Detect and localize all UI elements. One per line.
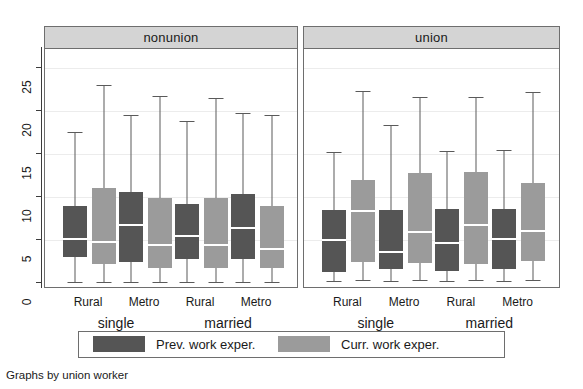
y-axis-tick — [36, 196, 41, 197]
x-tick-label-metro: Metro — [216, 295, 296, 309]
panel-union: union — [303, 26, 560, 288]
lower-whisker — [272, 268, 273, 282]
upper-whisker-cap — [209, 98, 224, 99]
plot-area-union — [304, 48, 559, 287]
lower-whisker — [420, 263, 421, 280]
lower-whisker-cap — [265, 282, 280, 283]
lower-whisker-cap — [384, 281, 399, 282]
lower-whisker-cap — [180, 282, 195, 283]
boxplot-box — [379, 48, 403, 287]
upper-whisker-cap — [236, 113, 251, 114]
boxplot-box — [351, 48, 375, 287]
box-iqr — [464, 172, 488, 264]
upper-whisker-cap — [180, 121, 195, 122]
boxplot-box — [119, 48, 143, 287]
lower-whisker — [216, 268, 217, 283]
median-line — [408, 231, 432, 233]
y-axis-tick — [36, 110, 41, 111]
boxplot-box — [408, 48, 432, 287]
boxplot-box — [175, 48, 199, 287]
median-line — [63, 238, 87, 240]
lower-whisker-cap — [440, 281, 455, 282]
legend-label: Prev. work exper. — [156, 337, 255, 352]
legend-swatch-curr — [278, 336, 330, 352]
upper-whisker — [504, 150, 505, 209]
lower-whisker-cap — [124, 282, 139, 283]
upper-whisker-cap — [384, 125, 399, 126]
upper-whisker — [75, 132, 76, 206]
upper-whisker-cap — [497, 150, 512, 151]
upper-whisker-cap — [153, 96, 168, 97]
y-axis-tick-label: 10 — [20, 203, 34, 229]
y-axis-tick — [36, 282, 41, 283]
median-line — [92, 241, 116, 243]
upper-whisker — [334, 152, 335, 210]
y-axis-tick-label: 15 — [20, 160, 34, 186]
median-line — [379, 251, 403, 253]
lower-whisker-cap — [497, 281, 512, 282]
panel-nonunion: nonunion — [44, 26, 298, 288]
y-axis-tick — [36, 153, 41, 154]
median-line — [322, 239, 346, 241]
boxplot-box — [322, 48, 346, 287]
upper-whisker — [216, 98, 217, 198]
upper-whisker — [533, 92, 534, 183]
upper-whisker — [420, 97, 421, 173]
lower-whisker-cap — [526, 280, 541, 281]
upper-whisker — [187, 121, 188, 203]
lower-whisker — [533, 261, 534, 281]
boxplot-box — [260, 48, 284, 287]
lower-whisker — [447, 271, 448, 281]
lower-whisker — [243, 259, 244, 282]
upper-whisker-cap — [124, 115, 139, 116]
lower-whisker — [104, 264, 105, 282]
legend-label: Curr. work exper. — [341, 337, 439, 352]
box-iqr — [260, 206, 284, 269]
upper-whisker-cap — [327, 152, 342, 153]
upper-whisker — [104, 85, 105, 188]
plot-area-nonunion — [45, 48, 297, 287]
box-iqr — [92, 188, 116, 264]
boxplot-figure: 0510152025 nonunionunion RuralMetrosingl… — [0, 0, 583, 389]
upper-whisker-cap — [97, 85, 112, 86]
lower-whisker-cap — [153, 282, 168, 283]
upper-whisker — [272, 115, 273, 205]
y-axis-tick-label: 20 — [20, 117, 34, 143]
median-line — [492, 238, 516, 240]
boxplot-box — [464, 48, 488, 287]
box-iqr — [204, 198, 228, 268]
y-axis-tick-label: 25 — [20, 74, 34, 100]
lower-whisker — [75, 257, 76, 282]
upper-whisker — [476, 97, 477, 173]
median-line — [351, 210, 375, 212]
y-axis-tick-label: 0 — [20, 289, 34, 315]
upper-whisker-cap — [440, 151, 455, 152]
upper-whisker — [391, 125, 392, 210]
x-group-label-married: married — [429, 315, 549, 331]
y-axis-tick — [36, 67, 41, 68]
legend-entry-curr: Curr. work exper. — [278, 336, 439, 352]
upper-whisker — [243, 113, 244, 194]
median-line — [231, 227, 255, 229]
x-tick-label-metro: Metro — [478, 295, 558, 309]
y-axis-tick-label: 5 — [20, 246, 34, 272]
box-iqr — [63, 206, 87, 258]
upper-whisker-cap — [265, 115, 280, 116]
median-line — [204, 244, 228, 246]
x-group-label-married: married — [168, 315, 288, 331]
chart-legend: Prev. work exper.Curr. work exper. — [78, 331, 505, 358]
lower-whisker — [476, 264, 477, 280]
figure-caption: Graphs by union worker — [6, 369, 128, 381]
lower-whisker-cap — [327, 281, 342, 282]
median-line — [175, 235, 199, 237]
box-iqr — [119, 192, 143, 262]
median-line — [435, 242, 459, 244]
legend-swatch-prev — [93, 336, 145, 352]
median-line — [260, 248, 284, 250]
upper-whisker — [447, 151, 448, 209]
box-iqr — [379, 210, 403, 269]
lower-whisker-cap — [68, 282, 83, 283]
median-line — [119, 224, 143, 226]
lower-whisker-cap — [209, 282, 224, 283]
box-iqr — [175, 204, 199, 259]
